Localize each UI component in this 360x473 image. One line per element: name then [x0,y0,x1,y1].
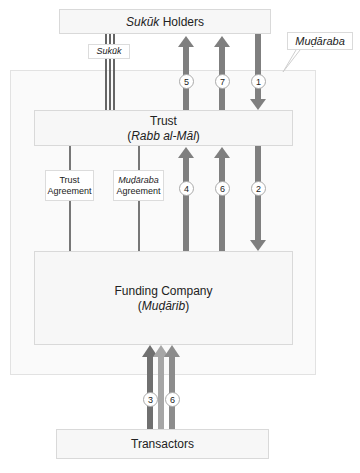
arrow-up-icon [164,345,180,429]
step-number: 1 [256,77,261,87]
step-number: 6 [170,395,175,405]
step-number: 2 [256,184,261,194]
step-number: 3 [148,395,153,405]
step-1-badge: 1 [251,74,266,89]
step-6-badge-bottom: 6 [165,392,180,407]
arrow-up-icon [178,147,194,251]
arrow-up-icon [178,36,194,110]
step-5-badge: 5 [179,74,194,89]
flow-arrows [0,0,360,473]
step-number: 5 [184,77,189,87]
step-6-badge: 6 [215,181,230,196]
arrow-up-icon [214,147,230,251]
step-7-badge: 7 [215,74,230,89]
arrow-down-icon [250,146,266,251]
step-4-badge: 4 [179,181,194,196]
step-number: 7 [220,77,225,87]
arrow-up-icon [142,345,158,429]
step-number: 4 [184,184,189,194]
arrow-up-icon [153,345,169,429]
arrow-down-icon [250,34,266,110]
step-2-badge: 2 [251,181,266,196]
step-3-badge: 3 [143,392,158,407]
arrow-up-icon [214,36,230,110]
step-number: 6 [220,184,225,194]
